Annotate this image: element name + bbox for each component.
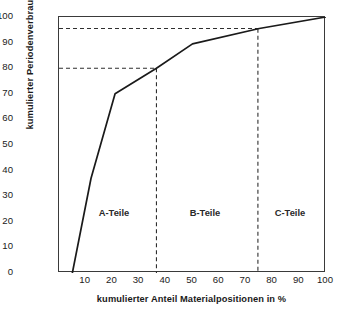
y-tick-20: 20 [0, 216, 13, 226]
y-axis-title: kumulierter Periodenverbrauch in % [22, 0, 38, 168]
y-tick-70: 70 [0, 88, 13, 98]
y-tick-60: 60 [0, 113, 13, 123]
y-tick-80: 80 [0, 62, 13, 72]
segment-label-c-teile: C-Teile [255, 207, 325, 218]
x-tick-100: 100 [310, 274, 340, 285]
x-tick-20: 20 [96, 274, 126, 285]
y-tick-40: 40 [0, 165, 13, 175]
plot-area [58, 16, 325, 272]
x-tick-80: 80 [257, 274, 287, 285]
y-tick-0: 0 [0, 267, 13, 277]
x-tick-60: 60 [203, 274, 233, 285]
y-tick-50: 50 [0, 139, 13, 149]
x-tick-40: 40 [150, 274, 180, 285]
segment-label-b-teile: B-Teile [170, 207, 240, 218]
x-axis-title: kumulierter Anteil Materialpositionen in… [58, 294, 325, 304]
x-tick-90: 90 [283, 274, 313, 285]
y-tick-100: 100 [0, 11, 13, 21]
y-tick-30: 30 [0, 190, 13, 200]
y-tick-10: 10 [0, 241, 13, 251]
segment-label-a-teile: A-Teile [79, 207, 149, 218]
abc-analysis-chart: kumulierter Periodenverbrauch in % 100 9… [0, 0, 342, 318]
x-tick-70: 70 [230, 274, 260, 285]
x-tick-30: 30 [123, 274, 153, 285]
y-tick-90: 90 [0, 37, 13, 47]
lorenz-curve [72, 17, 326, 273]
x-tick-10: 10 [70, 274, 100, 285]
plot-graphics [59, 17, 326, 273]
x-tick-50: 50 [177, 274, 207, 285]
